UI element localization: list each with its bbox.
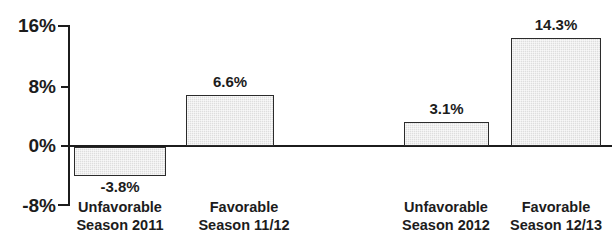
bar-chart: 16% 8% 0% -8% -3.8% 6.6% 3.1% 14.3% Unfa… [0,0,612,237]
category-label-line1: Favorable [210,199,279,215]
category-label-line2: Season 11/12 [181,216,307,234]
category-label-line2: Season 2011 [60,216,180,234]
category-label-unfavorable-season-2011: Unfavorable Season 2011 [60,198,180,234]
category-label-unfavorable-season-2012: Unfavorable Season 2012 [386,198,506,234]
category-label-favorable-season-11-12: Favorable Season 11/12 [181,198,307,234]
bar-favorable-season-12-13 [511,38,601,146]
bar-value-unfavorable-season-2012: 3.1% [404,101,489,116]
bar-unfavorable-season-2012 [404,122,489,146]
category-label-favorable-season-12-13: Favorable Season 12/13 [500,198,612,234]
bar-value-favorable-season-12-13: 14.3% [511,17,601,32]
category-label-line2: Season 2012 [386,216,506,234]
category-label-line1: Unfavorable [404,199,488,215]
bar-value-favorable-season-11-12: 6.6% [186,74,274,89]
bar-unfavorable-season-2011 [74,147,166,176]
category-label-line2: Season 12/13 [500,216,612,234]
bar-value-unfavorable-season-2011: -3.8% [74,179,166,194]
category-label-line1: Favorable [522,199,591,215]
category-label-line1: Unfavorable [78,199,162,215]
bar-favorable-season-11-12 [186,95,274,146]
